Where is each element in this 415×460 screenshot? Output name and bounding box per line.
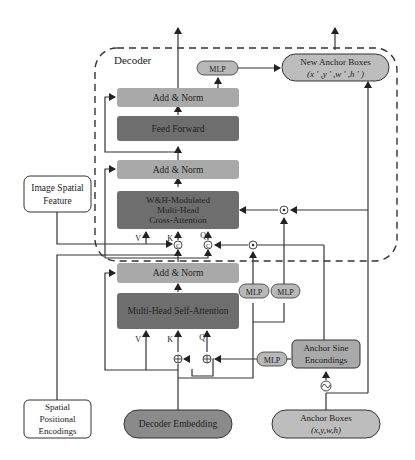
- svg-text:Anchor Boxes: Anchor Boxes: [300, 413, 352, 423]
- svg-text:Add & Norm: Add & Norm: [153, 165, 204, 175]
- cross-k-label: K: [167, 234, 173, 243]
- add-norm-mid: Add & Norm: [117, 160, 239, 179]
- mlp-mid-right: MLP: [271, 284, 300, 298]
- multiply-cross-icon: [280, 206, 288, 214]
- add-norm-top: Add & Norm: [117, 88, 239, 107]
- feed-forward-block: Feed Forward: [117, 116, 239, 141]
- cross-v-label: V: [135, 234, 141, 243]
- mlp-bottom: MLP: [257, 352, 287, 366]
- decoder-label: Decoder: [114, 54, 152, 66]
- mlp-top: MLP: [197, 61, 238, 75]
- svg-text:Decoder Embedding: Decoder Embedding: [139, 419, 218, 429]
- svg-text:Spatial: Spatial: [45, 402, 70, 412]
- anchor-boxes: Anchor Boxes (x,y,w,h): [272, 410, 380, 438]
- svg-text:Image Spatial: Image Spatial: [31, 183, 84, 193]
- add-norm-bottom: Add & Norm: [117, 263, 239, 283]
- self-v-label: V: [135, 335, 141, 344]
- svg-text:Add & Norm: Add & Norm: [153, 93, 204, 103]
- mlp-mid-left: MLP: [239, 284, 269, 298]
- svg-text:C: C: [206, 243, 210, 249]
- svg-text:Cross-Attention: Cross-Attention: [149, 215, 207, 225]
- spatial-positional-encodings: Spatial Positional Encodings: [24, 400, 91, 438]
- cross-attention-block: W&H-Modulated Multi-Head Cross-Attention: [117, 191, 239, 229]
- self-k-label: K: [167, 335, 173, 344]
- svg-text:MLP: MLP: [264, 356, 281, 365]
- svg-text:Encondings: Encondings: [305, 355, 348, 365]
- svg-text:W&H-Modulated: W&H-Modulated: [146, 195, 210, 205]
- self-q-label: Q: [199, 333, 205, 342]
- self-attention-block: Multi-Head Self-Attention: [117, 293, 239, 329]
- svg-text:MLP: MLP: [246, 288, 263, 297]
- decoder-embedding: Decoder Embedding: [124, 410, 232, 438]
- new-anchor-boxes: New Anchor Boxes (x ′ ,y ′ ,w ′ ,h ′ ): [282, 54, 389, 81]
- svg-text:MLP: MLP: [209, 65, 226, 74]
- svg-text:Add & Norm: Add & Norm: [153, 268, 204, 278]
- concat-q-icon: C: [204, 241, 212, 249]
- svg-text:Multi-Head Self-Attention: Multi-Head Self-Attention: [127, 306, 228, 316]
- svg-text:(x,y,w,h): (x,y,w,h): [311, 425, 341, 435]
- svg-text:Encodings: Encodings: [39, 426, 77, 436]
- svg-text:MLP: MLP: [277, 288, 294, 297]
- multiply-q-icon: [249, 241, 257, 249]
- image-spatial-feature: Image Spatial Feature: [24, 176, 91, 212]
- cross-q-label: Q: [200, 231, 206, 240]
- dab-detr-decoder-diagram: Decoder: [0, 0, 415, 460]
- svg-text:C: C: [176, 243, 180, 249]
- add-k-icon: [174, 355, 182, 363]
- svg-text:(x ′ ,y ′ ,w ′ ,h ′ ): (x ′ ,y ′ ,w ′ ,h ′ ): [307, 69, 364, 79]
- svg-text:New Anchor Boxes: New Anchor Boxes: [300, 57, 371, 67]
- svg-text:Feature: Feature: [43, 196, 72, 206]
- svg-text:Anchor Sine: Anchor Sine: [303, 343, 348, 353]
- svg-text:Feed Forward: Feed Forward: [151, 124, 204, 134]
- add-q-icon: [203, 355, 211, 363]
- anchor-sine-encodings: Anchor Sine Encondings: [292, 340, 360, 368]
- sine-icon: [321, 381, 331, 391]
- svg-text:Multi-Head: Multi-Head: [157, 205, 199, 215]
- svg-text:Positional: Positional: [39, 414, 76, 424]
- concat-k-icon: C: [174, 241, 182, 249]
